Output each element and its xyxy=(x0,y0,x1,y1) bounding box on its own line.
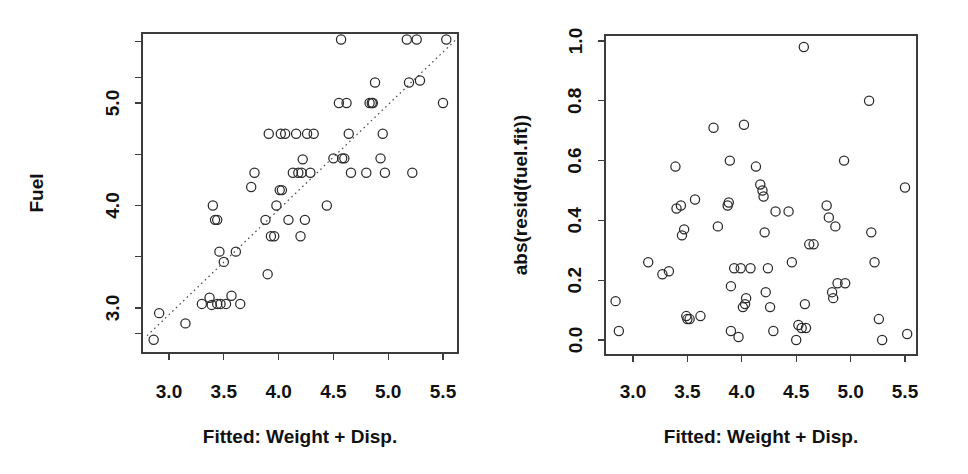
data-point xyxy=(761,288,770,297)
data-point xyxy=(799,42,808,51)
data-point xyxy=(213,215,222,224)
data-point xyxy=(408,168,417,177)
plot-frame xyxy=(142,33,458,353)
x-axis-title: Fitted: Weight + Disp. xyxy=(203,426,397,447)
data-point xyxy=(824,213,833,222)
data-point xyxy=(221,299,230,308)
data-point xyxy=(713,222,722,231)
plot-panel-absresid-vs-fitted: 3.03.54.04.55.05.50.00.20.40.60.81.0Fitt… xyxy=(484,0,968,474)
data-point xyxy=(736,264,745,273)
data-point xyxy=(272,201,281,210)
data-point xyxy=(442,35,451,44)
data-point xyxy=(402,35,411,44)
data-point xyxy=(338,154,347,163)
data-point xyxy=(309,129,318,138)
data-point xyxy=(215,247,224,256)
reference-line xyxy=(147,39,456,335)
x-axis-tick-label: 5.5 xyxy=(892,381,919,402)
data-point xyxy=(738,303,747,312)
data-point xyxy=(792,335,801,344)
x-axis-tick-label: 4.0 xyxy=(729,381,755,402)
data-point xyxy=(181,319,190,328)
data-point xyxy=(787,258,796,267)
y-axis-tick-label: 4.0 xyxy=(102,192,123,218)
data-point xyxy=(900,183,909,192)
data-point xyxy=(690,195,699,204)
x-axis-tick-label: 3.0 xyxy=(156,381,182,402)
data-point xyxy=(756,180,765,189)
x-axis-tick-label: 4.5 xyxy=(320,381,347,402)
data-point xyxy=(644,258,653,267)
scatter-plot-left[interactable]: 3.03.54.04.55.05.53.04.05.0Fitted: Weigh… xyxy=(0,0,484,474)
data-point xyxy=(300,215,309,224)
data-point xyxy=(759,192,768,201)
data-point xyxy=(378,129,387,138)
data-point xyxy=(263,270,272,279)
data-point xyxy=(236,299,245,308)
y-axis-tick-label: 0.4 xyxy=(565,207,586,234)
data-point xyxy=(404,78,413,87)
data-point xyxy=(288,168,297,177)
data-point xyxy=(763,264,772,273)
x-axis-tick-label: 4.0 xyxy=(265,381,291,402)
data-point xyxy=(680,225,689,234)
data-point xyxy=(208,201,217,210)
data-point xyxy=(800,300,809,309)
data-point xyxy=(247,182,256,191)
x-axis-tick-label: 5.0 xyxy=(837,381,863,402)
x-axis-tick-label: 5.0 xyxy=(375,381,401,402)
data-point xyxy=(370,78,379,87)
data-point xyxy=(683,314,692,323)
data-point xyxy=(231,247,240,256)
y-axis-tick-label: 0.8 xyxy=(565,88,586,114)
data-point xyxy=(227,291,236,300)
data-point xyxy=(277,186,286,195)
data-point xyxy=(742,294,751,303)
data-point xyxy=(344,129,353,138)
data-point xyxy=(329,154,338,163)
data-point xyxy=(739,120,748,129)
data-point xyxy=(322,201,331,210)
data-point xyxy=(275,186,284,195)
data-point xyxy=(298,155,307,164)
data-point xyxy=(264,129,273,138)
data-point xyxy=(210,215,219,224)
data-point xyxy=(292,129,301,138)
y-axis-tick-label: 1.0 xyxy=(565,28,586,54)
data-point xyxy=(751,162,760,171)
plot-panel-fuel-vs-fitted: 3.03.54.04.55.05.53.04.05.0Fitted: Weigh… xyxy=(0,0,484,474)
data-point xyxy=(867,228,876,237)
data-point xyxy=(306,168,315,177)
data-point xyxy=(870,258,879,267)
data-point xyxy=(784,207,793,216)
data-point xyxy=(412,35,421,44)
data-point xyxy=(769,326,778,335)
data-point xyxy=(724,198,733,207)
data-point xyxy=(149,335,158,344)
data-point xyxy=(865,96,874,105)
data-point xyxy=(822,201,831,210)
data-point xyxy=(874,314,883,323)
data-point xyxy=(709,123,718,132)
x-axis-tick-label: 3.5 xyxy=(211,381,238,402)
y-axis-title: Fuel xyxy=(26,173,47,212)
data-point xyxy=(376,154,385,163)
data-point xyxy=(415,76,424,85)
data-point xyxy=(831,222,840,231)
x-axis-tick-label: 3.5 xyxy=(674,381,701,402)
y-axis-tick-label: 0.6 xyxy=(565,147,586,173)
data-point xyxy=(765,303,774,312)
y-axis-tick-label: 3.0 xyxy=(102,295,123,321)
data-point xyxy=(362,168,371,177)
data-point xyxy=(380,168,389,177)
x-axis-title: Fitted: Weight + Disp. xyxy=(664,426,858,447)
figure-canvas: 3.03.54.04.55.05.53.04.05.0Fitted: Weigh… xyxy=(0,0,968,474)
scatter-plot-right[interactable]: 3.03.54.04.55.05.50.00.20.40.60.81.0Fitt… xyxy=(484,0,968,474)
data-point xyxy=(878,335,887,344)
data-point xyxy=(839,156,848,165)
data-point xyxy=(197,299,206,308)
data-point xyxy=(346,168,355,177)
data-point xyxy=(677,231,686,240)
y-axis-tick-label: 0.0 xyxy=(565,327,586,353)
data-point xyxy=(284,215,293,224)
